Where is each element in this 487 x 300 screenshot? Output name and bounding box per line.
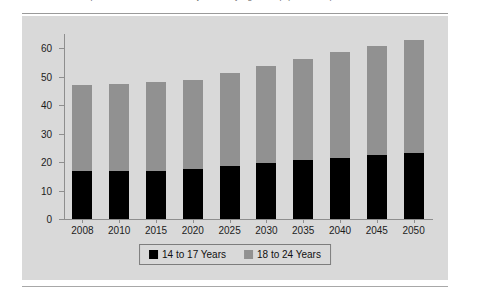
bar-segment-14-to-17[interactable] [404, 153, 424, 219]
bar-segment-14-to-17[interactable] [146, 171, 166, 219]
x-axis-label: 2045 [366, 225, 388, 236]
bar-segment-14-to-17[interactable] [183, 169, 203, 219]
bar-segment-14-to-17[interactable] [330, 158, 350, 219]
legend-label: 18 to 24 Years [257, 249, 321, 260]
bar-segment-18-to-24[interactable] [367, 46, 387, 155]
y-axis-label: 10 [22, 185, 52, 196]
legend-label: 14 to 17 Years [162, 249, 226, 260]
bar-segment-14-to-17[interactable] [220, 166, 240, 220]
x-axis-label: 2050 [402, 225, 424, 236]
bar-group[interactable] [183, 34, 203, 219]
x-axis-tick [156, 219, 157, 223]
x-axis-label: 2030 [255, 225, 277, 236]
divider-top [22, 13, 448, 14]
y-axis-label: 0 [22, 214, 52, 225]
bar-segment-14-to-17[interactable] [72, 171, 92, 219]
x-axis-tick [340, 219, 341, 223]
bar-group[interactable] [72, 34, 92, 219]
x-axis-label: 2035 [292, 225, 314, 236]
legend-swatch-gray [244, 250, 253, 259]
y-axis-label: 20 [22, 157, 52, 168]
y-axis-label: 40 [22, 100, 52, 111]
exhibit-title: EXHIBIT 3 Population Estimates and Proje… [22, 0, 482, 5]
bar-group[interactable] [293, 34, 313, 219]
x-axis-tick [82, 219, 83, 223]
x-axis-tick [193, 219, 194, 223]
exhibit-label: EXHIBIT 3 [22, 0, 68, 1]
chart-legend: 14 to 17 Years18 to 24 Years [139, 244, 331, 265]
x-axis-tick [414, 219, 415, 223]
bar-group[interactable] [330, 34, 350, 219]
bar-group[interactable] [404, 34, 424, 219]
bar-segment-18-to-24[interactable] [220, 73, 240, 166]
bar-group[interactable] [256, 34, 276, 219]
y-axis-label: 60 [22, 43, 52, 54]
bar-segment-14-to-17[interactable] [109, 171, 129, 219]
y-axis-label: 50 [22, 71, 52, 82]
bar-segment-18-to-24[interactable] [293, 59, 313, 160]
bar-group[interactable] [146, 34, 166, 219]
bar-segment-18-to-24[interactable] [72, 85, 92, 170]
plot-area [64, 34, 432, 219]
x-axis-tick [119, 219, 120, 223]
x-axis-tick [266, 219, 267, 223]
y-axis-label: 30 [22, 128, 52, 139]
x-axis-tick [303, 219, 304, 223]
bar-segment-14-to-17[interactable] [293, 160, 313, 219]
bar-segment-18-to-24[interactable] [330, 52, 350, 158]
bar-group[interactable] [220, 34, 240, 219]
bar-segment-18-to-24[interactable] [109, 84, 129, 171]
exhibit-caption: Population Estimates and Projections by … [80, 0, 333, 1]
x-axis-label: 2025 [218, 225, 240, 236]
legend-swatch-black [149, 250, 158, 259]
x-axis-tick [230, 219, 231, 223]
x-axis-label: 2015 [145, 225, 167, 236]
legend-item[interactable]: 18 to 24 Years [244, 249, 321, 260]
bar-segment-18-to-24[interactable] [256, 66, 276, 163]
x-axis-label: 2008 [71, 225, 93, 236]
x-axis-tick [377, 219, 378, 223]
x-axis-label: 2020 [182, 225, 204, 236]
bar-segment-18-to-24[interactable] [183, 80, 203, 169]
bar-segment-18-to-24[interactable] [404, 40, 424, 152]
divider-bottom [22, 286, 448, 287]
bar-group[interactable] [109, 34, 129, 219]
chart-panel: 0102030405060 20082010201520202025203020… [22, 16, 448, 280]
bar-segment-18-to-24[interactable] [146, 82, 166, 171]
legend-item[interactable]: 14 to 17 Years [149, 249, 226, 260]
x-axis-label: 2010 [108, 225, 130, 236]
x-axis-label: 2040 [329, 225, 351, 236]
bar-group[interactable] [367, 34, 387, 219]
y-axis-tick [59, 219, 65, 220]
bar-segment-14-to-17[interactable] [256, 163, 276, 219]
bar-segment-14-to-17[interactable] [367, 155, 387, 219]
